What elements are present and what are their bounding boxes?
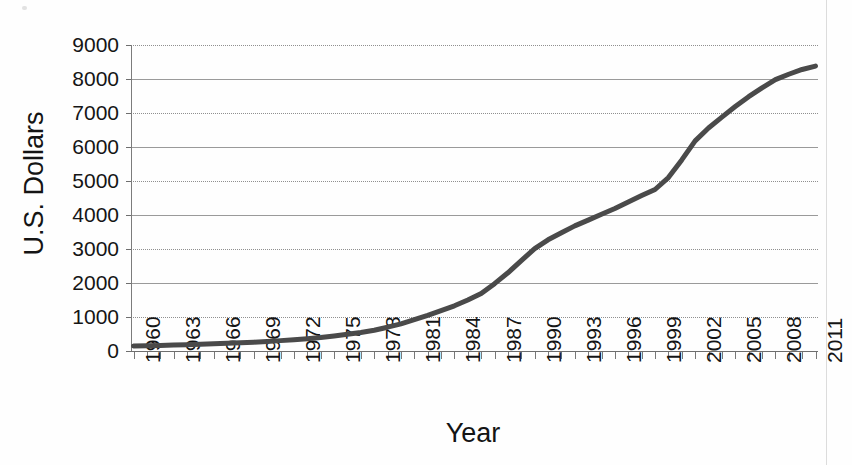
- x-axis-title: Year: [333, 418, 613, 449]
- plot-area: 9000800070006000500040003000200010000 19…: [131, 45, 818, 352]
- y-axis-tick-label: 3000: [49, 238, 119, 259]
- scan-artifact-speck: [22, 6, 27, 10]
- y-axis-tick-label: 4000: [49, 204, 119, 225]
- y-axis-tick-label: 0: [49, 340, 119, 361]
- x-axis-tick: [655, 352, 656, 359]
- y-axis-tick-label: 5000: [49, 170, 119, 191]
- x-axis-tick: [374, 352, 375, 359]
- y-axis-tick-label: 8000: [49, 68, 119, 89]
- y-axis-title: U.S. Dollars: [19, 64, 50, 304]
- y-axis-tick-label: 2000: [49, 272, 119, 293]
- y-axis-tick-label: 6000: [49, 136, 119, 157]
- x-axis-tick: [174, 352, 175, 359]
- x-axis-tick: [214, 352, 215, 359]
- x-axis-tick: [695, 352, 696, 359]
- y-axis-tick-label: 9000: [49, 34, 119, 55]
- x-axis-tick: [535, 352, 536, 359]
- x-axis-tick: [575, 352, 576, 359]
- data-series-line: [131, 45, 818, 352]
- x-axis-tick: [414, 352, 415, 359]
- y-axis-tick-label: 7000: [49, 102, 119, 123]
- y-axis-tick-label: 1000: [49, 306, 119, 327]
- x-axis-tick: [294, 352, 295, 359]
- x-axis-tick: [495, 352, 496, 359]
- x-axis-tick: [775, 352, 776, 359]
- x-axis-tick: [615, 352, 616, 359]
- x-axis-tick-label: 2011: [824, 318, 845, 363]
- x-axis-tick: [816, 352, 817, 359]
- x-axis-tick: [254, 352, 255, 359]
- chart-figure: U.S. Dollars Year 9000800070006000500040…: [0, 0, 852, 465]
- x-axis-tick: [454, 352, 455, 359]
- scan-artifact-page-edge: [826, 0, 827, 465]
- x-axis-tick: [334, 352, 335, 359]
- x-axis-tick: [735, 352, 736, 359]
- x-axis-tick: [134, 352, 135, 359]
